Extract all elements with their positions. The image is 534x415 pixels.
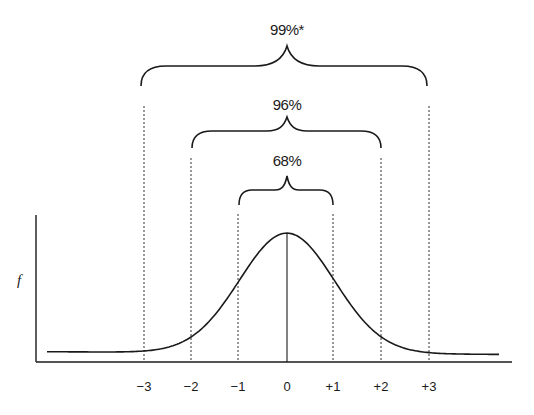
x-tick-label: 0 [283, 379, 290, 394]
x-tick-labels: −3 −2 −1 0 +1 +2 +3 [137, 379, 437, 394]
brace-99: 99%* [141, 21, 427, 86]
normal-curve [47, 233, 499, 354]
x-tick-label: +1 [326, 379, 341, 394]
brace-label-96: 96% [273, 96, 302, 113]
brace-68: 68% [239, 152, 333, 205]
y-axis-label: f [17, 272, 23, 288]
normal-distribution-diagram: f 99%* 96% 68% −3 −2 −1 [0, 0, 534, 415]
brace-label-99: 99%* [270, 21, 305, 38]
x-tick-label: −2 [184, 379, 199, 394]
brace-label-68: 68% [273, 152, 302, 169]
brace-96: 96% [192, 96, 381, 148]
x-tick-label: +3 [422, 379, 437, 394]
x-tick-label: +2 [374, 379, 389, 394]
x-tick-label: −3 [137, 379, 152, 394]
x-tick-label: −1 [231, 379, 246, 394]
